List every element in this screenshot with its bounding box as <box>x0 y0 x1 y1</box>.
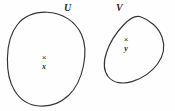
set-label-v: V <box>116 3 123 13</box>
times-marker-icon: × <box>42 54 47 62</box>
times-marker-icon: × <box>124 36 129 44</box>
point-y: × y <box>119 36 133 53</box>
point-label-y: y <box>124 45 128 53</box>
region-outline-v <box>104 16 163 83</box>
set-label-u: U <box>64 3 71 13</box>
point-x: × x <box>37 54 51 71</box>
set-diagram-figure: U V × x × y <box>0 0 175 111</box>
diagram-canvas <box>0 0 175 111</box>
point-label-x: x <box>42 63 46 71</box>
